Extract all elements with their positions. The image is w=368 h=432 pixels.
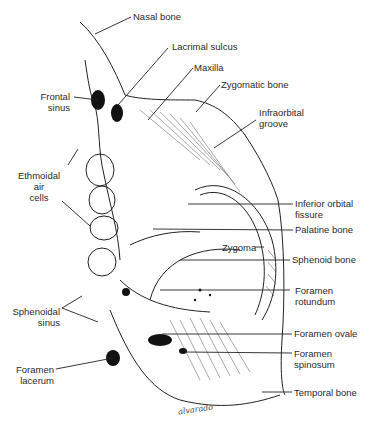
label-temporal-bone: Temporal bone	[294, 387, 357, 398]
label-foramen-spinosum-line2: spinosum	[294, 359, 335, 370]
label-foramen-rotundum: Foramen rotundum	[295, 285, 335, 307]
sphenoid-dome	[150, 249, 240, 300]
label-frontal-sinus: Frontal sinus	[30, 91, 70, 113]
nasal-outline	[80, 22, 285, 395]
label-inferior-orbital-fissure-line1: Inferior orbital	[295, 198, 353, 209]
foramen-spinosum-shape	[179, 348, 187, 354]
label-sphenoidal-sinus-line1: Sphenoidal	[4, 306, 60, 317]
label-infraorbital-groove-line1: Infraorbital	[259, 107, 304, 118]
label-foramen-lacerum-line1: Foramen	[8, 364, 54, 375]
label-ethmoidal-line2: air	[16, 181, 62, 192]
label-foramen-lacerum-line2: lacerum	[8, 375, 54, 386]
label-palatine-bone: Palatine bone	[295, 224, 353, 235]
label-ethmoidal-air-cells: Ethmoidal air cells	[16, 170, 62, 203]
label-lacrimal-sulcus: Lacrimal sulcus	[172, 41, 237, 52]
label-nasal-bone: Nasal bone	[133, 11, 181, 22]
label-foramen-ovale: Foramen ovale	[294, 328, 357, 339]
label-maxilla: Maxilla	[194, 62, 224, 73]
fossa-outline	[110, 310, 280, 405]
label-zygomatic-bone: Zygomatic bone	[221, 79, 289, 90]
label-sphenoidal-sinus-line2: sinus	[4, 317, 60, 328]
label-foramen-spinosum-line1: Foramen	[294, 348, 335, 359]
label-infraorbital-groove-line2: groove	[259, 118, 304, 129]
label-foramen-rotundum-line2: rotundum	[295, 296, 335, 307]
label-sphenoid-bone: Sphenoid bone	[292, 254, 356, 265]
label-inferior-orbital-fissure: Inferior orbital fissure	[295, 198, 353, 220]
label-inferior-orbital-fissure-line2: fissure	[295, 209, 353, 220]
foramen-ovale-shape	[148, 334, 172, 346]
label-frontal-sinus-line2: sinus	[30, 102, 70, 113]
zygoma-inner	[200, 192, 264, 315]
label-frontal-sinus-line1: Frontal	[30, 91, 70, 102]
label-foramen-lacerum: Foramen lacerum	[8, 364, 54, 386]
label-ethmoidal-line3: cells	[16, 192, 62, 203]
label-foramen-spinosum: Foramen spinosum	[294, 348, 335, 370]
label-infraorbital-groove: Infraorbital groove	[259, 107, 304, 129]
label-sphenoidal-sinus: Sphenoidal sinus	[4, 306, 60, 328]
label-ethmoidal-line1: Ethmoidal	[16, 170, 62, 181]
label-zygoma: Zygoma	[222, 242, 256, 253]
label-foramen-rotundum-line1: Foramen	[295, 285, 335, 296]
